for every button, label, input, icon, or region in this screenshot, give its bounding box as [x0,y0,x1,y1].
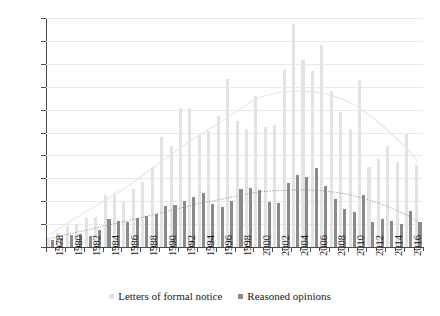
x-tick-mark-minor [244,247,245,251]
x-tick-label: 2000 [262,235,272,256]
x-tick-mark-minor [423,247,424,251]
x-tick-mark-minor [131,247,132,251]
x-tick-label: 1980 [74,235,84,256]
x-tick-mark [140,247,141,252]
x-tick-label: 1984 [111,235,121,256]
x-tick-label: 2008 [337,235,347,256]
legend-label: Letters of formal notice [118,290,222,302]
trendline-reasoned-opinions [51,190,419,238]
x-tick-mark [272,247,273,252]
x-tick-label: 1994 [206,235,216,256]
x-tick-mark [348,247,349,252]
legend-item-reasoned-opinions[interactable]: Reasoned opinions [238,290,330,302]
x-tick-mark [84,247,85,252]
x-tick-mark [121,247,122,252]
x-tick-mark-minor [112,247,113,251]
x-tick-mark-minor [74,247,75,251]
x-tick-label: 2014 [394,235,404,256]
x-tick-mark [216,247,217,252]
x-tick-label: 1996 [224,235,234,256]
x-tick-label: 2006 [319,235,329,256]
x-tick-mark-minor [263,247,264,251]
chart-legend: Letters of formal noticeReasoned opinion… [0,290,440,302]
x-tick-mark [235,247,236,252]
plot-area [46,18,423,247]
x-tick-mark-minor [225,247,226,251]
x-tick-label: 2002 [281,235,291,256]
x-tick-label: 1992 [187,235,197,256]
x-tick-label: 1982 [92,235,102,256]
x-tick-mark [310,247,311,252]
x-tick-mark-minor [93,247,94,251]
x-tick-mark [65,247,66,252]
x-tick-label: 1998 [243,235,253,256]
x-tick-label: 1978 [55,235,65,256]
legend-swatch-icon [109,294,114,299]
x-tick-mark-minor [150,247,151,251]
x-tick-mark [404,247,405,252]
x-tick-mark-minor [169,247,170,251]
x-tick-mark [178,247,179,252]
legend-item-letters-of-formal-notice[interactable]: Letters of formal notice [109,290,222,302]
x-tick-mark [159,247,160,252]
x-tick-mark [46,247,47,252]
x-tick-mark-minor [300,247,301,251]
trendline-letters-of-formal-notice [51,91,419,234]
x-tick-mark-minor [187,247,188,251]
x-tick-label: 2016 [413,235,423,256]
x-tick-mark [329,247,330,252]
x-tick-label: 1988 [149,235,159,256]
x-axis-ticks: 1978198019821984198619881990199219941996… [46,247,423,248]
x-tick-mark [103,247,104,252]
x-tick-mark [291,247,292,252]
legend-swatch-icon [238,294,243,299]
x-tick-mark-minor [55,247,56,251]
x-tick-label: 2010 [356,235,366,256]
x-tick-mark-minor [376,247,377,251]
x-tick-mark-minor [282,247,283,251]
x-tick-mark-minor [338,247,339,251]
x-tick-mark [385,247,386,252]
trendlines [46,18,423,247]
x-tick-mark-minor [357,247,358,251]
x-tick-mark-minor [319,247,320,251]
x-tick-label: 1990 [168,235,178,256]
x-tick-mark-minor [395,247,396,251]
x-tick-label: 2012 [375,235,385,256]
x-tick-label: 2004 [300,235,310,256]
x-tick-mark [366,247,367,252]
x-tick-mark-minor [206,247,207,251]
x-tick-mark [253,247,254,252]
x-tick-mark [197,247,198,252]
x-tick-mark-minor [414,247,415,251]
legend-label: Reasoned opinions [247,290,330,302]
x-tick-label: 1986 [130,235,140,256]
bar-chart: 02004006008001,0001,2001,4001,6001,8002,… [0,0,440,316]
